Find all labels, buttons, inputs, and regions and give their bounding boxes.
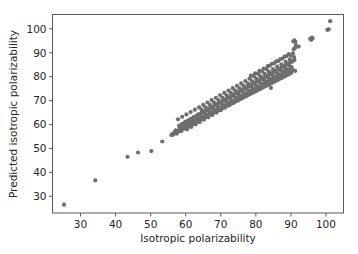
data-point xyxy=(264,79,268,83)
data-point xyxy=(256,79,260,83)
data-point xyxy=(231,86,235,90)
data-point xyxy=(210,110,214,114)
data-point xyxy=(210,98,214,102)
x-tick-label: 40 xyxy=(109,218,122,230)
y-tick-label: 80 xyxy=(33,70,46,82)
data-point xyxy=(193,108,197,112)
data-point xyxy=(285,62,289,66)
data-point xyxy=(197,105,201,109)
data-point xyxy=(256,72,260,76)
data-point xyxy=(239,88,243,92)
data-point xyxy=(226,88,230,92)
data-point xyxy=(93,178,97,182)
data-point xyxy=(222,98,226,102)
data-point xyxy=(213,103,217,107)
data-point xyxy=(189,125,193,129)
y-tick-label: 60 xyxy=(33,118,46,130)
data-point xyxy=(293,40,297,44)
data-point xyxy=(239,81,243,85)
data-point xyxy=(281,65,285,69)
data-point xyxy=(209,105,213,109)
data-point xyxy=(256,84,260,88)
data-point xyxy=(62,203,66,207)
data-point xyxy=(327,27,331,31)
data-point xyxy=(247,89,251,93)
data-point xyxy=(243,91,247,95)
scatter-plot-figure: 30405060708090100 30405060708090100 Isot… xyxy=(0,0,358,254)
y-tick-label: 40 xyxy=(33,166,46,178)
data-point xyxy=(293,69,297,73)
data-point xyxy=(268,72,272,76)
data-point xyxy=(226,96,230,100)
data-point xyxy=(188,117,192,121)
data-point xyxy=(218,93,222,97)
data-point xyxy=(222,91,226,95)
data-point xyxy=(281,70,285,74)
data-point xyxy=(290,65,294,69)
y-tick-label: 90 xyxy=(33,47,46,59)
x-tick-label: 50 xyxy=(144,218,157,230)
data-point xyxy=(180,122,184,126)
x-tick-label: 100 xyxy=(316,218,336,230)
y-tick-label: 30 xyxy=(33,190,46,202)
data-point xyxy=(184,112,188,116)
data-point xyxy=(218,106,222,110)
data-point xyxy=(136,150,140,154)
data-point xyxy=(297,44,301,48)
data-point xyxy=(175,132,179,136)
y-tick-label: 70 xyxy=(33,94,46,106)
data-point xyxy=(328,19,332,23)
data-point xyxy=(243,79,247,83)
data-point xyxy=(252,74,256,78)
data-point xyxy=(185,127,189,131)
data-point xyxy=(205,113,209,117)
y-tick-label: 100 xyxy=(26,23,46,35)
data-point xyxy=(214,108,218,112)
x-tick-label: 30 xyxy=(74,218,87,230)
x-tick-label: 60 xyxy=(179,218,192,230)
data-point xyxy=(226,101,230,105)
data-point xyxy=(231,99,235,103)
data-point xyxy=(264,67,268,71)
data-point xyxy=(264,74,268,78)
data-point xyxy=(277,72,281,76)
data-point xyxy=(234,91,238,95)
data-point xyxy=(289,53,293,57)
data-point xyxy=(179,129,183,133)
y-axis-title: Predicted isotropic polarizability xyxy=(7,30,19,198)
plot-canvas: 30405060708090100 30405060708090100 Isot… xyxy=(0,0,358,254)
data-point xyxy=(160,139,164,143)
data-point xyxy=(311,36,315,40)
data-point xyxy=(247,76,251,80)
data-point xyxy=(198,120,202,124)
data-point xyxy=(197,112,201,116)
data-point xyxy=(272,69,276,73)
data-point xyxy=(205,108,209,112)
x-tick-label: 70 xyxy=(214,218,227,230)
data-point xyxy=(201,103,205,107)
data-point xyxy=(214,96,218,100)
data-point xyxy=(285,67,289,71)
data-point xyxy=(184,120,188,124)
data-point xyxy=(202,118,206,122)
data-point xyxy=(252,87,256,91)
data-point xyxy=(260,82,264,86)
data-point xyxy=(176,117,180,121)
data-point xyxy=(269,86,273,90)
data-point xyxy=(260,76,264,80)
data-point xyxy=(268,77,272,81)
data-point xyxy=(289,60,293,64)
data-point xyxy=(276,59,280,63)
data-point xyxy=(260,69,264,73)
data-point xyxy=(192,115,196,119)
data-point xyxy=(272,61,276,65)
data-point xyxy=(180,115,184,119)
x-axis-title: Isotropic polarizability xyxy=(140,232,256,244)
data-point xyxy=(251,81,255,85)
data-point xyxy=(235,96,239,100)
y-tick-label: 50 xyxy=(33,142,46,154)
data-point xyxy=(235,84,239,88)
data-point xyxy=(268,64,272,68)
data-point xyxy=(205,100,209,104)
data-point xyxy=(230,93,234,97)
